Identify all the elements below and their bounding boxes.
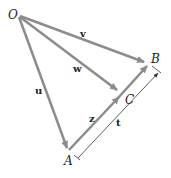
- vector-diagram: O B C A v w u z t: [0, 0, 171, 178]
- point-label-o: O: [8, 8, 18, 22]
- dimension-tick-a: [74, 155, 80, 160]
- point-label-a: A: [63, 154, 73, 168]
- vector-v-arrow: [20, 16, 144, 62]
- vector-label-v: v: [79, 28, 87, 39]
- point-label-b: B: [150, 52, 160, 66]
- vector-label-w: w: [72, 63, 82, 74]
- diagram-canvas: O B C A v w u z t: [0, 0, 171, 178]
- vector-w-arrow: [20, 17, 117, 90]
- vector-label-u: u: [35, 85, 42, 96]
- point-label-c: C: [125, 93, 134, 107]
- vector-label-z: z: [89, 113, 95, 124]
- vector-u-arrow: [19, 17, 67, 148]
- dimension-tick-b: [152, 66, 161, 73]
- dimension-label-t: t: [116, 117, 121, 128]
